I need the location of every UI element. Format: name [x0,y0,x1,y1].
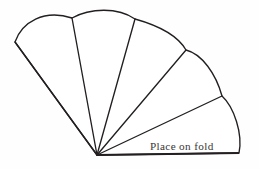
fan-pattern-figure: Place on fold [0,0,259,169]
pattern-drawing-canvas: Place on fold [0,0,259,169]
place-on-fold-label: Place on fold [150,140,214,152]
